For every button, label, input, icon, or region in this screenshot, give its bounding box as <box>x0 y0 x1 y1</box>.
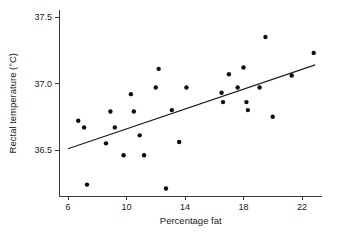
data-point: 13.6, 36.56 <box>177 140 181 144</box>
data-point: 7.3, 36.24 <box>85 182 89 186</box>
data-point: 17.6, 36.97 <box>235 85 239 89</box>
data-point: 22.8, 37.23 <box>312 51 316 55</box>
data-point: 10.3, 36.92 <box>129 92 133 96</box>
data-point: 8.6, 36.55 <box>104 141 108 145</box>
x-tick-label: 6 <box>65 202 70 212</box>
x-tick-label: 18 <box>238 202 248 212</box>
data-point: 13.1, 36.8 <box>170 108 174 112</box>
scatter-chart: 36.537.037.5610141822Percentage fatRecta… <box>0 0 343 233</box>
data-point: 8.9, 36.79 <box>108 109 112 113</box>
data-point: 18.3, 36.8 <box>246 108 250 112</box>
data-point: 21.3, 37.06 <box>290 73 294 77</box>
x-axis-title: Percentage fat <box>160 215 222 226</box>
data-point: 12, 36.97 <box>154 85 158 89</box>
data-point: 10.9, 36.61 <box>137 133 141 137</box>
data-point: 7.1, 36.67 <box>82 125 86 129</box>
data-point: 17, 37.07 <box>227 72 231 76</box>
data-point: 12.2, 37.11 <box>156 67 160 71</box>
data-point: 14.1, 36.97 <box>184 85 188 89</box>
data-point: 19.5, 37.35 <box>263 35 267 39</box>
y-axis-title: Rectal temperature (°C) <box>7 53 18 153</box>
y-tick-label: 36.5 <box>34 145 52 155</box>
y-tick-label: 37.5 <box>34 12 52 22</box>
data-point: 11.2, 36.46 <box>142 153 146 157</box>
data-point: 10.5, 36.79 <box>132 109 136 113</box>
plot-area: 36.537.037.5610141822Percentage fatRecta… <box>0 0 343 233</box>
data-point: 16.5, 36.93 <box>219 91 223 95</box>
x-tick-label: 10 <box>121 202 131 212</box>
data-point: 9.2, 36.67 <box>113 125 117 129</box>
data-point: 9.8, 36.46 <box>121 153 125 157</box>
data-point: 16.6, 36.86 <box>221 100 225 104</box>
data-point: 6.7, 36.72 <box>76 119 80 123</box>
data-point: 20, 36.75 <box>271 115 275 119</box>
data-point: 18.2, 36.86 <box>244 100 248 104</box>
data-point: 19.1, 36.97 <box>257 85 261 89</box>
data-point: 12.7, 36.21 <box>164 186 168 190</box>
x-tick-label: 22 <box>297 202 307 212</box>
regression-line <box>68 65 315 149</box>
y-tick-label: 37.0 <box>34 79 52 89</box>
data-point: 18, 37.12 <box>241 65 245 69</box>
x-tick-label: 14 <box>180 202 190 212</box>
